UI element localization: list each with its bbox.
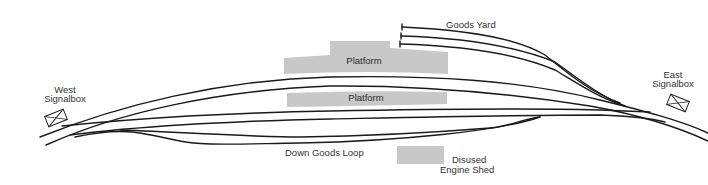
west-signalbox-icon [45,109,68,127]
track-down-goods-loop-2 [120,117,540,137]
down-goods-loop-label: Down Goods Loop [285,147,364,158]
engine-shed-label-line2: Engine Shed [440,164,494,175]
west-signalbox: West Signalbox [44,84,86,127]
east-signalbox-icon [667,94,690,112]
engine-shed [397,146,444,164]
east-signalbox: East Signalbox [652,69,694,112]
east-signalbox-label-line2: Signalbox [652,78,694,89]
platform-upper-label: Platform [346,55,381,66]
track-platform-loop-upper [62,109,650,126]
west-signalbox-label-line2: Signalbox [44,93,86,104]
platforms: Platform Platform [284,41,448,164]
goods-yard-label: Goods Yard [446,19,496,30]
platform-lower-label: Platform [348,92,383,103]
railway-track-diagram: Platform Platform West Signalbox [0,0,708,185]
